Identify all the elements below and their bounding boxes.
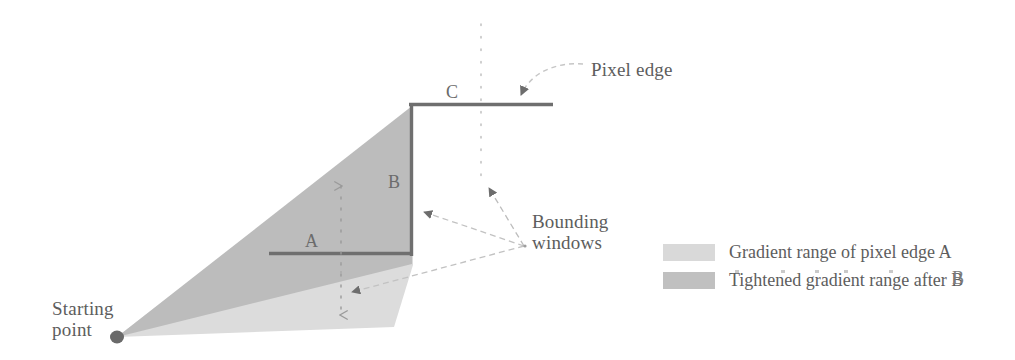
pixel-edge-label: Pixel edge: [591, 59, 673, 80]
legend-swatch-gradient-range-a: [663, 244, 715, 261]
bounding-windows-label: Bounding windows: [532, 211, 609, 254]
legend-item: Gradient range of pixel edge A: [663, 238, 1008, 266]
starting-point-label: Starting point: [52, 298, 114, 341]
leader-pixel-edge: [521, 64, 583, 95]
leader-bounding-to-grid-line: [489, 188, 524, 246]
legend-stray-mark: B: [952, 268, 964, 289]
leader-bounding-to-edge-b: [424, 212, 524, 246]
edge-c-label: C: [446, 82, 458, 102]
legend-label-gradient-range-a: Gradient range of pixel edge A: [729, 242, 951, 263]
edge-a-label: A: [305, 231, 318, 251]
legend-swatch-tightened-range: [663, 272, 715, 289]
diagram-svg: [0, 0, 1015, 360]
leader-convergence-dot: [523, 244, 526, 247]
edge-b-label: B: [388, 172, 400, 192]
scan-artifact-dots: [735, 270, 955, 276]
diagram-canvas: Starting point Pixel edge Bounding windo…: [0, 0, 1015, 360]
